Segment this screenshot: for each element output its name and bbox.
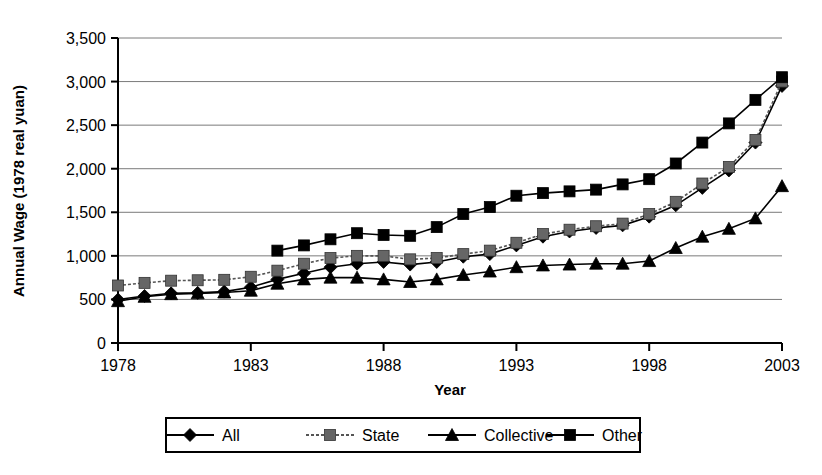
square-marker: [458, 209, 469, 220]
square-marker: [617, 179, 628, 190]
square-marker: [537, 229, 548, 240]
square-marker: [723, 161, 734, 172]
y-tick-label: 1,000: [66, 248, 106, 265]
y-tick-label: 500: [79, 291, 106, 308]
y-tick-label: 2,000: [66, 161, 106, 178]
y-tick-label: 2,500: [66, 117, 106, 134]
square-marker: [458, 249, 469, 260]
square-marker: [378, 250, 389, 261]
y-tick-label: 3,500: [66, 30, 106, 47]
legend-label: All: [222, 427, 240, 444]
square-marker: [750, 134, 761, 145]
square-marker: [644, 174, 655, 185]
square-marker: [325, 253, 336, 264]
chart-figure: 05001,0001,5002,0002,5003,0003,500 19781…: [0, 0, 822, 475]
square-marker: [166, 275, 177, 286]
square-marker: [139, 277, 150, 288]
x-tick-label: 1998: [631, 357, 667, 374]
square-marker: [352, 228, 363, 239]
x-tick-label: 1993: [499, 357, 535, 374]
y-tick-label: 0: [97, 335, 106, 352]
square-marker: [750, 94, 761, 105]
square-marker: [298, 258, 309, 269]
square-marker: [511, 237, 522, 248]
square-marker: [537, 188, 548, 199]
square-marker: [352, 250, 363, 261]
square-marker: [591, 184, 602, 195]
square-marker: [644, 209, 655, 220]
square-marker: [564, 186, 575, 197]
square-marker: [697, 178, 708, 189]
square-marker: [431, 253, 442, 264]
square-marker: [405, 230, 416, 241]
square-marker: [272, 245, 283, 256]
square-marker: [617, 218, 628, 229]
square-marker: [511, 190, 522, 201]
square-marker: [484, 245, 495, 256]
legend-label: State: [362, 427, 399, 444]
square-marker: [113, 280, 124, 291]
square-marker: [325, 234, 336, 245]
square-marker: [431, 222, 442, 233]
square-marker: [192, 275, 203, 286]
y-tick-label: 3,000: [66, 74, 106, 91]
square-marker: [697, 137, 708, 148]
square-marker: [484, 202, 495, 213]
legend-label: Collective: [484, 427, 553, 444]
x-tick-label: 1988: [366, 357, 402, 374]
square-marker: [670, 158, 681, 169]
legend: AllStateCollectiveOther: [166, 418, 643, 452]
square-marker: [272, 265, 283, 276]
y-axis-title: Annual Wage (1978 real yuan): [10, 85, 27, 297]
x-tick-label: 1978: [100, 357, 136, 374]
square-marker: [298, 240, 309, 251]
y-tick-label: 1,500: [66, 204, 106, 221]
x-tick-label: 2003: [764, 357, 800, 374]
square-marker: [219, 274, 230, 285]
square-marker: [670, 196, 681, 207]
square-marker: [564, 224, 575, 235]
square-marker: [565, 430, 576, 441]
square-marker: [405, 254, 416, 265]
square-marker: [378, 229, 389, 240]
line-chart: 05001,0001,5002,0002,5003,0003,500 19781…: [0, 0, 822, 475]
legend-label: Other: [602, 427, 643, 444]
square-marker: [591, 221, 602, 232]
square-marker: [245, 271, 256, 282]
x-axis-title: Year: [434, 381, 466, 398]
square-marker: [777, 72, 788, 83]
x-tick-label: 1983: [233, 357, 269, 374]
square-marker: [723, 118, 734, 129]
square-marker: [325, 430, 336, 441]
